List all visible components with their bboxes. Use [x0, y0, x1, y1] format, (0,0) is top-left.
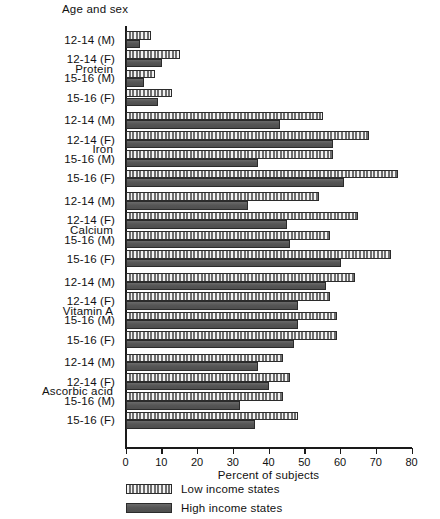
x-tick-30	[233, 448, 234, 454]
group-label-vitamin-a: Vitamin A	[63, 305, 113, 317]
x-tick-label-0: 0	[122, 456, 128, 468]
bar-high-income	[126, 78, 144, 87]
category-label: 15-16 (F)	[67, 92, 115, 104]
x-axis-title: Percent of subjects	[125, 469, 412, 481]
bar-low-income	[126, 131, 369, 140]
chart-figure: Age and sex 01020304050607080 Percent of…	[0, 0, 440, 519]
bar-high-income	[126, 401, 240, 410]
bar-low-income	[126, 273, 355, 282]
group-label-iron: Iron	[92, 143, 113, 155]
bar-high-income	[126, 320, 298, 329]
category-label: 12-14 (M)	[64, 34, 115, 46]
bar-high-income	[126, 178, 344, 187]
bar-low-income	[126, 150, 333, 159]
x-tick-label-10: 10	[155, 456, 167, 468]
x-tick-80	[412, 448, 413, 454]
bar-low-income	[126, 312, 337, 321]
bar-high-income	[126, 140, 333, 149]
bar-high-income	[126, 98, 158, 107]
group-label-calcium: Calcium	[70, 224, 113, 236]
bar-low-income	[126, 354, 283, 363]
bar-high-income	[126, 282, 326, 291]
bar-high-income	[126, 59, 162, 68]
x-tick-50	[304, 448, 305, 454]
legend-label-high-income: High income states	[181, 502, 282, 514]
category-label: 12-14 (M)	[64, 195, 115, 207]
bar-high-income	[126, 362, 258, 371]
legend-label-low-income: Low income states	[181, 483, 280, 495]
legend-swatch-low-income	[126, 484, 172, 494]
x-tick-10	[161, 448, 162, 454]
bar-high-income	[126, 40, 140, 49]
group-label-protein: Protein	[75, 63, 113, 75]
bar-low-income	[126, 70, 155, 79]
bar-low-income	[126, 231, 330, 240]
legend-swatch-high-income	[126, 503, 172, 513]
bar-low-income	[126, 250, 391, 259]
category-label: 15-16 (F)	[67, 172, 115, 184]
bar-low-income	[126, 31, 151, 40]
legend-item-high[interactable]: High income states	[126, 500, 282, 516]
bar-high-income	[126, 120, 280, 129]
bar-low-income	[126, 212, 358, 221]
category-label: 15-16 (F)	[67, 334, 115, 346]
bar-low-income	[126, 331, 337, 340]
x-tick-label-40: 40	[262, 456, 274, 468]
group-label-ascorbic-acid: Ascorbic acid	[42, 385, 113, 397]
bar-high-income	[126, 382, 269, 391]
bar-low-income	[126, 170, 398, 179]
bar-low-income	[126, 50, 180, 59]
bar-high-income	[126, 201, 248, 210]
category-label: 12-14 (M)	[64, 356, 115, 368]
bar-low-income	[126, 89, 172, 98]
legend-item-low[interactable]: Low income states	[126, 481, 282, 497]
chart-legend: Low income states High income states	[126, 481, 282, 519]
bar-high-income	[126, 220, 287, 229]
category-label: 15-16 (F)	[67, 414, 115, 426]
x-tick-label-30: 30	[227, 456, 239, 468]
x-tick-60	[340, 448, 341, 454]
x-tick-0	[126, 448, 127, 454]
category-label: 12-14 (M)	[64, 114, 115, 126]
bar-low-income	[126, 373, 290, 382]
bar-low-income	[126, 112, 323, 121]
bar-low-income	[126, 292, 330, 301]
bar-high-income	[126, 240, 290, 249]
bar-low-income	[126, 392, 283, 401]
category-label: 12-14 (M)	[64, 276, 115, 288]
y-axis-title: Age and sex	[62, 3, 128, 15]
bar-high-income	[126, 420, 255, 429]
x-tick-label-20: 20	[191, 456, 203, 468]
x-tick-70	[376, 448, 377, 454]
bar-high-income	[126, 301, 298, 310]
bar-low-income	[126, 192, 319, 201]
x-tick-label-60: 60	[334, 456, 346, 468]
x-tick-label-70: 70	[370, 456, 382, 468]
x-tick-40	[269, 448, 270, 454]
bar-high-income	[126, 340, 294, 349]
x-tick-label-80: 80	[405, 456, 417, 468]
bar-low-income	[126, 412, 298, 421]
bar-high-income	[126, 259, 341, 268]
x-tick-label-50: 50	[298, 456, 310, 468]
category-label: 15-16 (F)	[67, 253, 115, 265]
bar-high-income	[126, 159, 258, 168]
x-tick-20	[197, 448, 198, 454]
